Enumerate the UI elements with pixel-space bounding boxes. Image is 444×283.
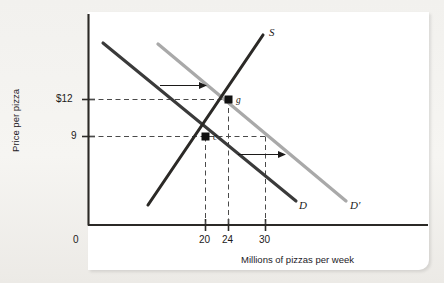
y-tick-label-9: 9 [71,130,77,141]
point-label-g: g [236,95,241,105]
y-tick-label-12: $12 [56,93,73,104]
point-marker-g [225,96,233,104]
point-marker-c [202,133,210,141]
x-tick-label-20: 20 [199,234,210,245]
origin-label: 0 [73,234,79,245]
curve-label-D-prime: D′ [350,199,360,211]
chart-plot-area: Price per pizza Millions of pizzas per w… [0,0,444,283]
curve-label-S: S [269,26,275,38]
y-axis-title: Price per pizza [10,78,21,164]
point-label-c: c [213,132,217,142]
curve-label-D: D [299,199,307,211]
curve-demand-D [103,43,296,201]
x-tick-label-30: 30 [259,234,270,245]
x-tick-label-24: 24 [222,234,233,245]
curve-demand-D-prime [158,44,346,201]
x-axis-title: Millions of pizzas per week [241,254,354,265]
figure-container: Price per pizza Millions of pizzas per w… [0,0,444,283]
axis-lines [88,14,428,226]
